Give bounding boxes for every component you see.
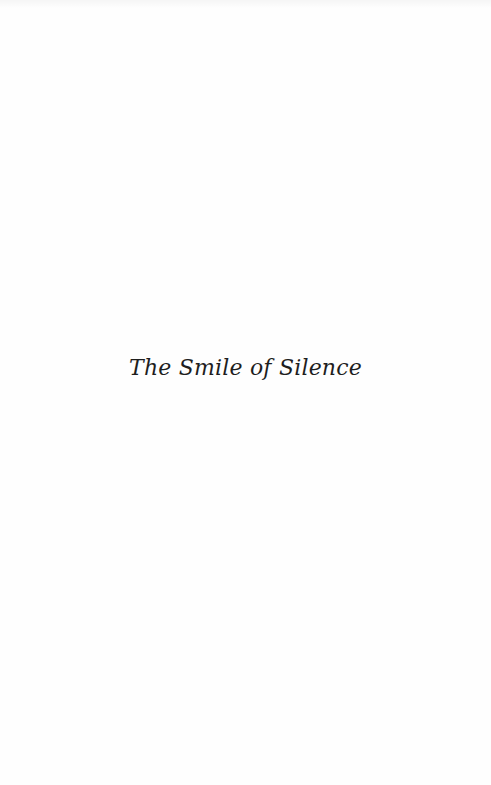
book-page: The Smile of Silence	[0, 0, 491, 785]
scan-edge-shadow	[0, 0, 491, 8]
half-title: The Smile of Silence	[0, 355, 491, 380]
